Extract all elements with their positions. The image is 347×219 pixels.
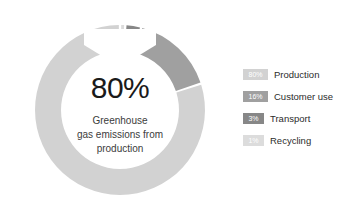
center-caption-line-2: gas emissions from [77, 129, 163, 140]
legend-item-recycling[interactable]: 1% Recycling [243, 130, 347, 150]
center-caption-line-1: Greenhouse [92, 115, 147, 126]
legend-label-recycling: Recycling [270, 135, 311, 146]
legend-item-transport[interactable]: 3% Transport [243, 108, 347, 128]
legend-chip-transport: 3% [243, 113, 264, 124]
donut-chart-area: 80% Greenhouse gas emissions from produc… [0, 0, 240, 219]
chart-legend: 80% Production 16% Customer use 3% Trans… [243, 64, 347, 152]
donut-chart-figure: 80% Greenhouse gas emissions from produc… [0, 0, 347, 219]
legend-chip-production: 80% [243, 69, 268, 80]
center-caption-line-3: production [97, 143, 144, 154]
center-percentage: 80% [91, 71, 150, 104]
inner-chevron-notch-icon [84, 29, 156, 67]
legend-item-customer-use[interactable]: 16% Customer use [243, 86, 347, 106]
donut-chart-svg: 80% Greenhouse gas emissions from produc… [0, 0, 240, 219]
legend-chip-customer-use: 16% [243, 91, 268, 102]
legend-chip-recycling: 1% [243, 135, 264, 146]
legend-item-production[interactable]: 80% Production [243, 64, 347, 84]
legend-label-transport: Transport [270, 113, 310, 124]
legend-label-customer-use: Customer use [274, 91, 333, 102]
legend-label-production: Production [274, 69, 319, 80]
